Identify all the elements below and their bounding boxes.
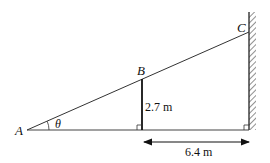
label-A: A xyxy=(14,123,23,138)
right-angle-mark-wall xyxy=(244,125,249,130)
wall-hatching xyxy=(249,12,256,130)
line-AC xyxy=(27,32,249,130)
angle-label-theta: θ xyxy=(55,117,61,131)
height-label: 2.7 m xyxy=(145,100,173,114)
distance-label: 6.4 m xyxy=(185,145,213,159)
diagram-canvas: A B C θ 2.7 m 6.4 m xyxy=(0,0,270,163)
label-C: C xyxy=(237,20,246,35)
label-B: B xyxy=(137,63,145,78)
angle-arc xyxy=(47,121,49,130)
